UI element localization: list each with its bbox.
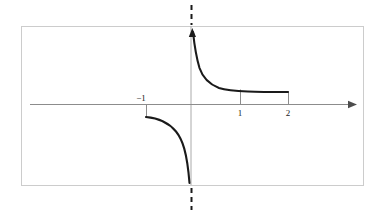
plot-frame	[22, 27, 364, 186]
xtick-label-2: 2	[286, 108, 291, 118]
upper-right-branch	[193, 32, 288, 92]
lower-left-branch	[146, 117, 190, 183]
x-axis-arrowhead	[348, 101, 357, 108]
graph-figure: −1 1 2	[0, 0, 378, 216]
graph-canvas: −1 1 2	[0, 0, 378, 216]
xtick-label-1: 1	[238, 108, 243, 118]
xtick-label-neg1: −1	[136, 93, 146, 103]
curve-arrowhead	[189, 28, 196, 37]
